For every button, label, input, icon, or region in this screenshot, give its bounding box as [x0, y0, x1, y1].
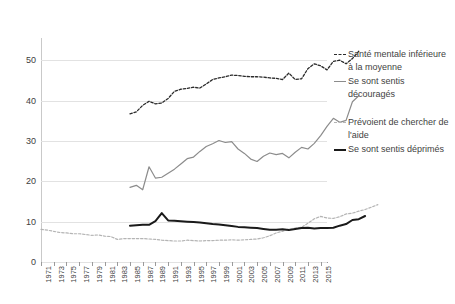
legend-label: Se sont sentis déprimés — [348, 143, 452, 156]
x-tick-label-1971: 1971 — [44, 266, 53, 283]
x-tick-label-2005: 2005 — [260, 266, 269, 283]
x-tick — [232, 262, 233, 266]
x-tick — [66, 262, 67, 266]
x-tick-label-1977: 1977 — [82, 266, 91, 283]
series-line-0 — [130, 51, 359, 114]
x-tick-label-1979: 1979 — [95, 266, 104, 283]
y-tick-label-10: 10 — [6, 217, 36, 227]
x-tick-label-1989: 1989 — [158, 266, 167, 283]
legend-label: Santé mentale inférieure à la moyenne — [348, 48, 452, 73]
x-tick — [244, 262, 245, 266]
chart-legend: Santé mentale inférieure à la moyenneSe … — [334, 48, 452, 172]
x-tick-label-2011: 2011 — [298, 266, 307, 282]
series-line-1 — [130, 96, 359, 190]
x-tick-label-1997: 1997 — [209, 266, 218, 283]
x-tick-label-1985: 1985 — [133, 266, 142, 283]
legend-marker-icon — [334, 122, 346, 123]
legend-marker-icon — [334, 81, 346, 82]
legend-group-0: Santé mentale inférieure à la moyenneSe … — [334, 48, 452, 100]
series-line-3 — [130, 213, 365, 230]
x-tick — [321, 262, 322, 266]
legend-entry[interactable]: Prévoient de chercher de l'aide — [334, 116, 452, 141]
x-tick — [206, 262, 207, 266]
x-tick — [79, 262, 80, 266]
x-tick — [143, 262, 144, 266]
x-tick-label-1981: 1981 — [108, 266, 117, 283]
x-tick — [117, 262, 118, 266]
x-tick — [270, 262, 271, 266]
y-tick-label-0: 0 — [6, 257, 36, 267]
x-tick — [130, 262, 131, 266]
x-tick — [92, 262, 93, 266]
legend-entry[interactable]: Se sont sentis déprimés — [334, 143, 452, 156]
x-tick-label-2015: 2015 — [324, 266, 333, 283]
x-tick-label-1987: 1987 — [146, 266, 155, 283]
legend-entry[interactable]: Santé mentale inférieure à la moyenne — [334, 48, 452, 73]
y-axis-labels: 01020304050 — [0, 0, 36, 304]
x-tick — [41, 262, 42, 266]
chart-container: 01020304050 1971197319751977197919811983… — [0, 0, 455, 304]
x-tick-label-1991: 1991 — [171, 266, 180, 283]
y-tick-label-30: 30 — [6, 136, 36, 146]
x-tick-label-1973: 1973 — [57, 266, 66, 283]
plot-area — [41, 40, 327, 262]
x-tick-label-1999: 1999 — [222, 266, 231, 283]
x-tick — [295, 262, 296, 266]
x-tick — [257, 262, 258, 266]
x-tick-label-2013: 2013 — [311, 266, 320, 283]
x-tick-label-1993: 1993 — [184, 266, 193, 283]
x-tick — [194, 262, 195, 266]
x-tick-label-2003: 2003 — [247, 266, 256, 283]
x-tick — [54, 262, 55, 266]
y-tick-label-50: 50 — [6, 55, 36, 65]
series-lines — [41, 40, 327, 262]
x-tick-label-1995: 1995 — [197, 266, 206, 283]
x-tick — [105, 262, 106, 266]
y-tick-label-40: 40 — [6, 96, 36, 106]
x-tick-label-2009: 2009 — [286, 266, 295, 283]
x-tick-label-2007: 2007 — [273, 266, 282, 283]
legend-marker-icon — [334, 149, 346, 151]
x-tick — [283, 262, 284, 266]
y-tick-label-20: 20 — [6, 176, 36, 186]
x-tick-label-1983: 1983 — [120, 266, 129, 283]
legend-group-1: Prévoient de chercher de l'aideSe sont s… — [334, 116, 452, 156]
x-tick-label-1975: 1975 — [69, 266, 78, 283]
gridline — [41, 262, 327, 263]
legend-label: Se sont sentis découragés — [348, 75, 452, 100]
legend-entry[interactable]: Se sont sentis découragés — [334, 75, 452, 100]
x-tick — [155, 262, 156, 266]
x-tick — [308, 262, 309, 266]
x-tick-label-2001: 2001 — [235, 266, 244, 283]
legend-marker-icon — [334, 54, 346, 55]
x-tick — [168, 262, 169, 266]
legend-label: Prévoient de chercher de l'aide — [348, 116, 452, 141]
x-tick — [181, 262, 182, 266]
x-tick — [219, 262, 220, 266]
